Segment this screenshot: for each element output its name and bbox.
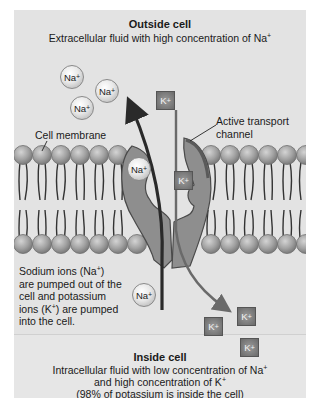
description-line: into the cell. [19, 315, 122, 328]
charge: + [263, 364, 267, 371]
ion-symbol: Na [131, 164, 143, 175]
sodium-ion: Na+ [60, 65, 84, 89]
channel-label: Active transport channel [216, 115, 289, 140]
sodium-ion: Na+ [70, 96, 94, 120]
potassium-ion: K+ [204, 317, 223, 336]
potassium-ion: K+ [237, 307, 256, 326]
ion-symbol: K [241, 311, 247, 322]
charge: + [222, 376, 226, 383]
ion-symbol: Na [99, 86, 111, 97]
ion-symbol: K [208, 321, 214, 332]
text: Sodium ions (Na [19, 265, 97, 277]
ion-symbol: Na [64, 72, 76, 83]
inside-cell-title: Inside cell [14, 351, 306, 363]
diagram-panel: Outside cell Extracellular fluid with hi… [14, 10, 306, 398]
description-line: cell and potassium [19, 290, 122, 303]
potassium-ion-in-channel: K+ [174, 171, 193, 190]
text: and high concentration of K [94, 376, 222, 388]
cell-membrane-label: Cell membrane [35, 129, 106, 142]
text: are pumped out of the [19, 278, 122, 290]
description-line: ions (K+) are pumped [19, 303, 122, 316]
ion-symbol: K [178, 175, 184, 186]
text: ) are pumped [56, 303, 118, 315]
text: Intracellular fluid with low concentrati… [53, 364, 264, 376]
text: ions (K [19, 303, 52, 315]
text: cell and potassium [19, 290, 106, 302]
cell-membrane-diagram [14, 10, 306, 398]
inside-cell-line3: (98% of potassium is inside the cell) [14, 388, 306, 398]
channel-label-line2: channel [216, 128, 289, 141]
ion-symbol: Na [74, 103, 86, 114]
description-text: Sodium ions (Na+) are pumped out of the … [19, 265, 122, 328]
channel-label-line1: Active transport [216, 115, 289, 128]
ion-symbol: K [160, 95, 166, 106]
sodium-ion-in-channel: Na+ [127, 157, 151, 181]
potassium-ion: K+ [156, 91, 175, 110]
text: into the cell. [19, 315, 75, 327]
channel-pointer [190, 125, 216, 141]
inside-cell-line1: Intracellular fluid with low concentrati… [14, 364, 306, 376]
description-line: are pumped out of the [19, 278, 122, 291]
inside-cell-line2: and high concentration of K+ [14, 376, 306, 388]
sodium-ion: Na+ [132, 283, 156, 307]
ion-symbol: Na [136, 290, 148, 301]
lipid-heads-outer [14, 146, 306, 165]
sodium-ion: Na+ [95, 79, 119, 103]
text: ) [101, 265, 105, 277]
description-line: Sodium ions (Na+) [19, 265, 122, 278]
